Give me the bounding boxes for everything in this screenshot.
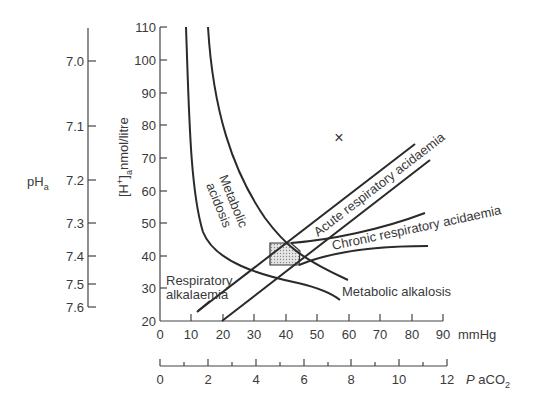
mmhg-tick: 30 [247,327,261,342]
ph-tick: 7.0 [66,54,84,69]
ph-tick: 7.6 [66,300,84,315]
kpa-tick: 8 [347,372,354,387]
ph-tick: 7.4 [66,249,84,264]
ph-tick: 7.2 [66,173,84,188]
h-tick: 70 [142,151,156,166]
mmhg-tick: 20 [216,327,230,342]
kpa-axis-title: P aCO2 [466,372,510,390]
mmhg-tick: 70 [373,327,387,342]
h-tick: 30 [142,281,156,296]
kpa-tick: 10 [392,372,406,387]
kpa-tick: 2 [204,372,211,387]
normal-range-box [270,243,300,265]
mmhg-tick: 0 [156,327,163,342]
h-axis: 110 100 90 80 70 60 50 40 30 20 [H+]anmo… [115,20,167,329]
kpa-tick: 6 [300,372,307,387]
mmhg-tick: 60 [342,327,356,342]
mmhg-tick: 50 [310,327,324,342]
h-tick: 20 [142,314,156,329]
mmhg-tick: 90 [436,327,450,342]
h-tick: 90 [142,86,156,101]
mmhg-unit: mmHg [458,327,496,342]
mmhg-axis: 0 10 20 30 40 50 60 70 80 90 mmHg [156,314,496,342]
resp-alkalaemia-label-2: alkalaemia [166,287,229,302]
h-tick: 100 [134,53,156,68]
mmhg-tick: 80 [405,327,419,342]
h-tick: 110 [135,20,156,35]
resp-alkalaemia-pointer [197,301,210,312]
ph-axis-title: pHa [27,174,49,192]
marker-x-icon: × [334,129,343,146]
chronic-resp-lower-line [299,246,428,265]
mmhg-tick: 40 [279,327,293,342]
ph-tick: 7.1 [66,119,84,134]
h-tick: 80 [142,118,156,133]
kpa-axis: 0 2 4 6 8 10 12 P aCO2 [156,359,510,390]
kpa-tick: 0 [156,372,163,387]
metabolic-alkalosis-label: Metabolic alkalosis [342,284,452,299]
kpa-tick: 12 [440,372,454,387]
h-tick: 50 [142,216,156,231]
h-axis-title: [H+]anmol/litre [115,117,134,197]
resp-alkalaemia-label-1: Respiratory [166,273,233,288]
metabolic-acidosis-inner-curve [208,27,348,280]
ph-tick: 7.5 [66,277,84,292]
ph-axis: 7.0 7.1 7.2 7.3 7.4 7.5 7.6 pHa [27,28,96,315]
h-tick: 40 [142,249,156,264]
acid-base-diagram: 7.0 7.1 7.2 7.3 7.4 7.5 7.6 pHa 110 100 … [0,0,545,410]
ph-tick: 7.3 [66,216,84,231]
mmhg-tick: 10 [184,327,198,342]
kpa-tick: 4 [252,372,259,387]
h-tick: 60 [142,184,156,199]
